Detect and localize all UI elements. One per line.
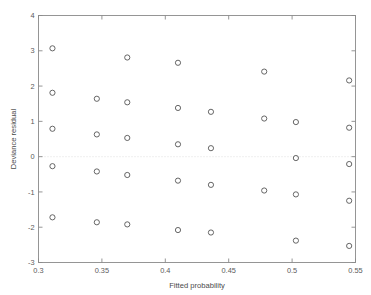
y-tick-label: 3 [30,46,34,55]
x-tick-label: 0.35 [95,266,109,275]
data-point-marker [175,60,180,65]
data-point-marker [125,55,130,60]
data-point-marker [293,192,298,197]
data-point-marker [262,188,267,193]
data-point-marker [175,227,180,232]
x-axis-title: Fitted probability [169,281,225,290]
data-point-marker [347,125,352,130]
data-point-marker [262,116,267,121]
data-point-marker [175,178,180,183]
plot-canvas: 0.30.350.40.450.50.55-3-2-101234Fitted p… [0,0,371,295]
data-point-marker [50,164,55,169]
x-tick-label: 0.3 [33,266,43,275]
data-point-marker [94,132,99,137]
data-point-marker [94,220,99,225]
x-tick-label: 0.55 [348,266,362,275]
x-tick-label: 0.45 [222,266,236,275]
y-tick-label: -1 [28,188,35,197]
data-point-marker [94,169,99,174]
data-point-marker [50,126,55,131]
data-point-marker [347,161,352,166]
data-point-marker [94,96,99,101]
data-point-marker [175,142,180,147]
data-point-marker [293,155,298,160]
data-point-marker [125,222,130,227]
data-point-marker [347,198,352,203]
data-point-marker [208,230,213,235]
y-axis-title: Deviance residual [9,109,18,170]
data-point-marker [208,109,213,114]
data-point-marker [208,182,213,187]
data-point-marker [293,238,298,243]
y-tick-label: -2 [28,223,35,232]
y-tick-label: 4 [30,11,34,20]
y-tick-label: 1 [30,117,34,126]
x-tick-label: 0.5 [287,266,297,275]
y-tick-label: 0 [30,152,34,161]
data-point-marker [293,119,298,124]
data-point-marker [347,78,352,83]
data-point-marker [125,172,130,177]
data-point-marker [50,46,55,51]
data-point-marker [125,135,130,140]
data-point-marker [175,105,180,110]
data-point-marker [208,146,213,151]
y-tick-label: 2 [30,82,34,91]
x-tick-label: 0.4 [160,266,170,275]
data-point-marker [50,90,55,95]
y-tick-label: -3 [28,258,35,267]
axes-frame [39,16,356,263]
data-point-marker [347,243,352,248]
data-point-marker [50,215,55,220]
data-point-marker [262,69,267,74]
scatter-plot-figure: 0.30.350.40.450.50.55-3-2-101234Fitted p… [0,0,371,295]
data-point-marker [125,100,130,105]
